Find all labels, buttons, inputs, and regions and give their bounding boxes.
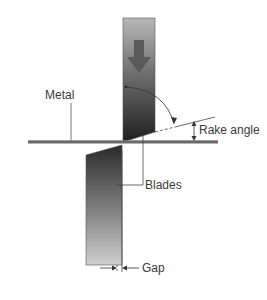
- lower-blade: [86, 145, 122, 265]
- metal-strip: [28, 141, 218, 144]
- blades-label: Blades: [145, 179, 182, 191]
- metal-label: Metal: [45, 89, 74, 101]
- diagram-canvas: Metal Rake angle Blades Gap: [0, 0, 267, 300]
- upper-blade: [123, 18, 155, 142]
- rake-angle-label: Rake angle: [199, 124, 260, 136]
- rake-angle-dimension: [192, 121, 197, 141]
- gap-label: Gap: [142, 262, 165, 274]
